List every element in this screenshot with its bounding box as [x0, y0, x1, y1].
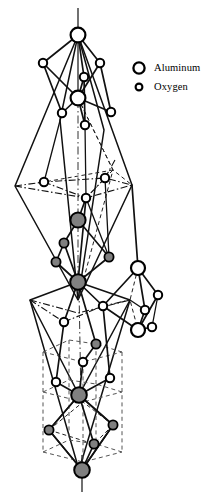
upper-equatorial-plane — [15, 178, 132, 186]
oxygen-atom — [80, 73, 88, 81]
legend-label-aluminum: Aluminum — [150, 62, 200, 73]
oxygen-atom — [91, 339, 100, 348]
oxygen-atom — [52, 378, 60, 386]
oxygen-atom — [51, 257, 60, 266]
bond-o2-o5 — [100, 63, 111, 112]
top-octahedron-bonds — [43, 35, 111, 125]
oxygen-atom — [59, 238, 68, 247]
oxygen-atom — [104, 252, 113, 261]
legend: Aluminum Oxygen — [128, 58, 208, 96]
aluminum-atom — [71, 387, 87, 403]
oxygen-atom — [39, 59, 47, 67]
aluminum-atom — [71, 28, 86, 43]
oxygen-atom — [96, 59, 104, 67]
oxygen-atom — [141, 306, 149, 314]
bond-o10-o20 — [103, 306, 110, 378]
lower-equatorial-plane — [30, 300, 130, 313]
bond-o6-o-lower — [85, 125, 86, 198]
oxygen-atom — [82, 194, 90, 202]
upper-equatorial-plane-front — [15, 185, 132, 198]
cell-top-face-back — [43, 340, 122, 352]
aluminum-atom — [131, 323, 145, 337]
oxygen-atom — [107, 108, 115, 116]
legend-item-oxygen: Oxygen — [128, 77, 208, 96]
oxygen-atom — [148, 323, 156, 331]
oxygen-atom — [101, 174, 109, 182]
oxygen-atom — [89, 439, 98, 448]
oxygen-atom — [106, 374, 114, 382]
right-oct-hidden-edge — [130, 268, 138, 330]
equatorial-chord-left — [44, 182, 86, 198]
legend-item-aluminum: Aluminum — [128, 58, 208, 77]
aluminum-atom — [70, 212, 85, 227]
legend-label-oxygen: Oxygen — [150, 81, 188, 92]
bond-o1-o4 — [43, 63, 62, 113]
oxygen-atom — [58, 109, 66, 117]
oxygen-atom — [154, 291, 162, 299]
crystal-structure-figure: Aluminum Oxygen — [0, 0, 208, 499]
equatorial-planes — [15, 160, 132, 322]
oxygen-marker-icon — [128, 79, 150, 95]
aluminum-atom — [70, 274, 86, 290]
aluminum-atom — [71, 91, 86, 106]
aluminum-marker-icon — [128, 60, 150, 76]
lower-equatorial-plane-front — [30, 300, 130, 322]
upper-outer-cage — [15, 35, 132, 300]
oxygen-atom — [40, 178, 48, 186]
bond-al5-cage — [132, 185, 138, 268]
bond-o4-o-lower — [44, 113, 62, 182]
oxygen-atom — [108, 420, 117, 429]
bond-o-upper-o9 — [105, 178, 109, 257]
aluminum-atom — [131, 261, 145, 275]
oxygen-atom — [79, 358, 87, 366]
upper-cage-inner-left-edge — [60, 35, 78, 300]
oxygen-atom — [81, 121, 89, 129]
oxygen-atom — [60, 318, 68, 326]
aluminum-atom — [74, 462, 90, 478]
oxygen-atom — [99, 302, 107, 310]
oxygen-atom — [44, 425, 53, 434]
